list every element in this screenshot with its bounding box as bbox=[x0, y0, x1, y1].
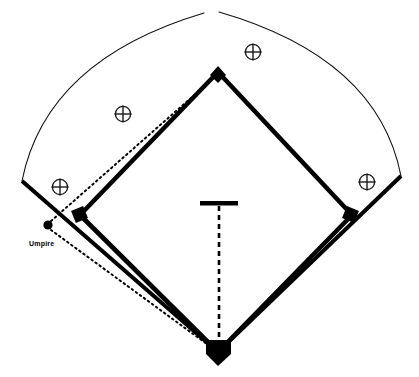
outfield-arc-right bbox=[219, 12, 401, 176]
outfield-fence-group bbox=[22, 12, 401, 181]
umpire-marker bbox=[43, 220, 52, 229]
fielder-marker-left bbox=[51, 178, 68, 195]
pitchers-mound-group bbox=[200, 201, 238, 347]
baseline-first-to-second bbox=[218, 72, 352, 215]
baseball-field-diagram: Umpire bbox=[0, 0, 419, 377]
umpire-label: Umpire bbox=[29, 240, 54, 248]
bases-group bbox=[71, 66, 359, 366]
baseline-third-to-home bbox=[80, 215, 218, 352]
umpire-group: Umpire bbox=[29, 220, 54, 248]
field-svg: Umpire bbox=[0, 0, 419, 377]
fielder-marker-center bbox=[244, 43, 261, 60]
baseline-second-to-third bbox=[80, 72, 218, 215]
baseline-home-to-first bbox=[218, 215, 352, 352]
fielder-marker-right bbox=[358, 173, 375, 190]
outfield-arc-left bbox=[22, 13, 204, 181]
home-plate-marker bbox=[206, 340, 231, 366]
fielder-marker-left-center bbox=[114, 105, 131, 122]
umpire-to-home-plate-line bbox=[51, 230, 215, 350]
umpire-to-second-base-line bbox=[51, 76, 216, 221]
pitchers-rubber bbox=[200, 201, 238, 206]
left-foul-line bbox=[22, 181, 218, 352]
fielder-markers-group bbox=[51, 43, 375, 195]
